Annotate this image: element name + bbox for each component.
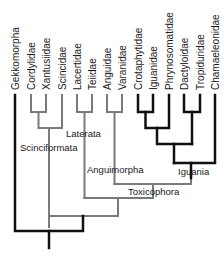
taxon-label-lacertidae: Lacertidae xyxy=(72,43,83,90)
taxon-label-iguanidae: Iguanidae xyxy=(148,46,159,90)
gray-branches xyxy=(31,95,191,227)
taxon-label-crotaphytidae: Crotaphytidae xyxy=(133,27,144,90)
phylogenetic-tree: Gekkomorpha Cordylidae Xantusiidae Scinc… xyxy=(0,0,224,263)
clade-label-anguimorpha: Anguimorpha xyxy=(87,164,144,175)
taxon-label-phrynosomatidae: Phrynosomatidae xyxy=(164,12,175,90)
clade-label-iguania: Iguania xyxy=(178,166,210,177)
taxon-label-varanidae: Varanidae xyxy=(117,45,128,90)
taxon-label-tropiduridae: Tropiduridae xyxy=(195,34,206,90)
taxon-label-dactyloidae: Dactyloidae xyxy=(179,37,190,90)
clade-label-toxicophora: Toxicophora xyxy=(128,186,180,197)
taxon-label-gekkomorpha: Gekkomorpha xyxy=(10,27,21,90)
taxon-labels: Gekkomorpha Cordylidae Xantusiidae Scinc… xyxy=(10,12,221,90)
taxon-label-chamaeleonidae: Chamaeleonidae xyxy=(210,14,221,90)
taxon-label-anguidae: Anguidae xyxy=(102,47,113,90)
taxon-label-scincidae: Scincidae xyxy=(57,46,68,90)
clade-label-scinciformata: Scinciformata xyxy=(20,142,78,153)
taxon-label-cordylidae: Cordylidae xyxy=(26,42,37,90)
clade-label-laterata: Laterata xyxy=(66,128,102,139)
taxon-label-xantusiidae: Xantusiidae xyxy=(41,37,52,90)
taxon-label-teiidae: Teiidae xyxy=(87,58,98,90)
